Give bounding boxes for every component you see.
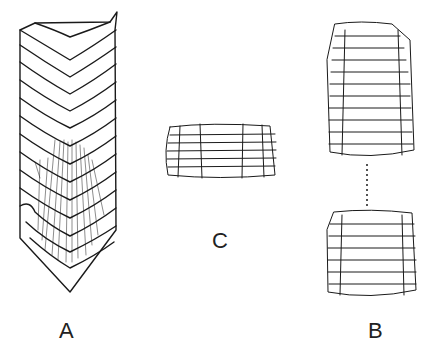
panel-label-a: A xyxy=(59,318,74,344)
figure-illustration xyxy=(0,0,432,354)
panel-b-drawing xyxy=(327,22,416,296)
panel-label-b: B xyxy=(368,318,383,344)
panel-label-c: C xyxy=(212,228,228,254)
panel-c-drawing xyxy=(166,124,276,178)
panel-a-drawing xyxy=(20,12,117,292)
